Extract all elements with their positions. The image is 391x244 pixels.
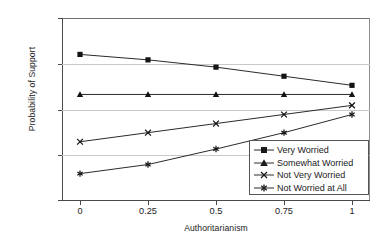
series-very-worried: [77, 52, 354, 88]
chart-legend: Very Worried Somewhat Worried Not Very W…: [249, 140, 369, 195]
legend-label: Somewhat Worried: [275, 157, 353, 169]
series-not-very-worried: [77, 102, 355, 144]
legend-item-not-worried-at-all: Not Worried at All: [253, 182, 364, 195]
x-tick-label-1: 1: [349, 206, 354, 216]
x-tick-mark-0-25: [148, 201, 149, 205]
x-marker-icon: [253, 169, 275, 181]
x-axis-title: Authoritarianism: [62, 223, 370, 233]
legend-item-very-worried: Very Worried: [253, 144, 364, 157]
x-tick-mark-0-5: [216, 201, 217, 205]
triangle-marker-icon: [253, 157, 275, 169]
x-tick-label-0-5: 0.5: [210, 206, 223, 216]
asterisk-marker-icon: [253, 182, 275, 194]
y-axis-title: Probability of Support: [27, 0, 37, 184]
series-somewhat-worried: [77, 91, 355, 97]
x-tick-mark-1: [352, 201, 353, 205]
legend-label: Not Very Worried: [275, 169, 345, 181]
x-tick-label-0-25: 0.25: [139, 206, 157, 216]
x-tick-label-0: 0: [77, 206, 82, 216]
x-tick-label-0-75: 0.75: [275, 206, 293, 216]
x-tick-mark-0: [80, 201, 81, 205]
legend-item-not-very-worried: Not Very Worried: [253, 169, 364, 182]
chart-figure: Probability of Support Authoritarianism …: [0, 0, 391, 244]
legend-item-somewhat-worried: Somewhat Worried: [253, 157, 364, 170]
x-tick-mark-0-75: [284, 201, 285, 205]
legend-label: Not Worried at All: [275, 182, 347, 194]
legend-label: Very Worried: [275, 144, 329, 156]
square-marker-icon: [253, 144, 275, 156]
